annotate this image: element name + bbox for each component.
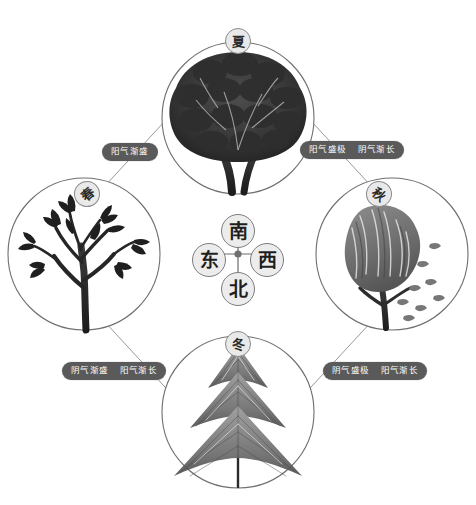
season-badge-summer[interactable]: 夏	[225, 28, 251, 54]
compass-label-west: 西	[250, 243, 284, 277]
phase-text-b: 阴气渐长	[358, 145, 396, 154]
season-node-summer	[162, 42, 314, 194]
compass-label-east: 东	[192, 243, 226, 277]
season-badge-winter-label: 冬	[232, 338, 245, 351]
compass-label-west-text: 西	[258, 251, 277, 270]
compass-label-east-text: 东	[200, 251, 219, 270]
season-node-autumn	[316, 178, 468, 330]
season-badge-spring-label: 春	[78, 185, 96, 203]
compass-label-north-text: 北	[229, 280, 248, 299]
compass-label-south-text: 南	[229, 222, 248, 241]
season-badge-winter[interactable]: 冬	[225, 331, 251, 357]
seasonal-yinyang-diagram: 春 夏 秋 冬 南 北 东 西 阳气渐盛 阳气盛极 阴气渐长 阴气渐盛 阳气渐长…	[0, 0, 476, 505]
phase-label-winter-to-spring: 阴气渐盛 阳气渐长	[62, 362, 166, 380]
compass-label-south: 南	[221, 214, 255, 248]
phase-label-autumn-to-winter: 阴气盛极 阳气渐长	[323, 362, 427, 380]
phase-text-a: 阴气盛极	[332, 366, 370, 375]
season-node-winter	[162, 336, 314, 488]
diagram-canvas	[0, 0, 476, 505]
phase-text-b: 阳气渐长	[120, 366, 158, 375]
compass-label-north: 北	[221, 272, 255, 306]
season-badge-autumn-label: 秋	[370, 185, 388, 203]
season-badge-summer-label: 夏	[232, 35, 245, 48]
phase-text-b: 阳气渐长	[381, 366, 419, 375]
phase-text-a: 阳气渐盛	[111, 147, 149, 156]
phase-text-a: 阴气渐盛	[71, 366, 109, 375]
compass-hub	[234, 250, 241, 257]
phase-label-summer-to-autumn: 阳气盛极 阴气渐长	[300, 141, 404, 159]
phase-text-a: 阳气盛极	[309, 145, 347, 154]
phase-label-spring-to-summer: 阳气渐盛	[102, 143, 158, 161]
